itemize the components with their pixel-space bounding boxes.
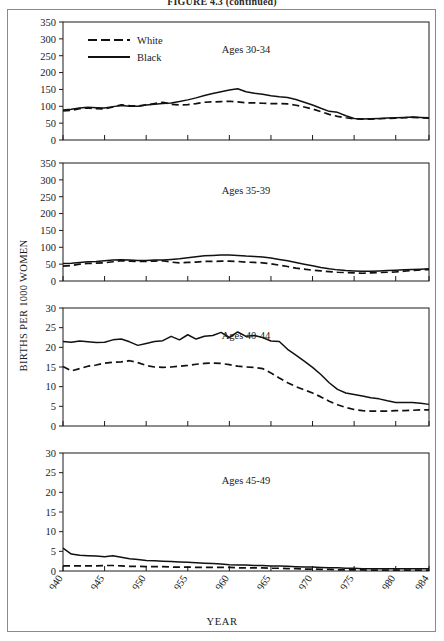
plot-frame	[63, 453, 429, 571]
y-tick-label: 350	[40, 159, 56, 169]
y-tick-label: 300	[40, 34, 56, 45]
y-tick-label: 300	[40, 175, 56, 186]
y-tick-label: 20	[46, 487, 57, 498]
x-tick-label-group: 1980	[377, 573, 398, 589]
y-tick-label: 30	[46, 304, 57, 314]
series-line-black	[63, 548, 429, 568]
x-tick-label-group: 1955	[169, 573, 190, 589]
panel-plot-3: 051015202530Ages 40-44	[0, 304, 444, 444]
y-tick-label: 10	[46, 526, 57, 537]
panel-4: 051015202530Ages 45-49194019451950195519…	[0, 449, 444, 589]
series-line-black	[63, 89, 429, 119]
y-tick-label: 20	[46, 342, 57, 353]
x-tick-label: 1955	[169, 573, 190, 589]
panel-age-label: Ages 40-44	[222, 330, 271, 341]
x-tick-label: 1975	[335, 573, 356, 589]
series-line-black	[63, 332, 429, 404]
panel-plot-4: 051015202530Ages 45-49194019451950195519…	[0, 449, 444, 589]
y-tick-label: 25	[46, 322, 57, 333]
plot-frame	[63, 308, 429, 426]
x-tick-label: 1970	[294, 573, 315, 589]
legend-label-white: White	[137, 35, 163, 46]
y-tick-label: 0	[51, 135, 56, 146]
y-tick-label: 15	[46, 507, 57, 518]
panel-2: 050100150200250300350Ages 35-39	[0, 159, 444, 299]
y-tick-label: 150	[40, 225, 56, 236]
figure-root: FIGURE 4.3 (continued) BIRTHS PER 1000 W…	[0, 0, 444, 641]
x-tick-label-group: 1975	[335, 573, 356, 589]
x-tick-label-group: 1970	[294, 573, 315, 589]
series-line-white	[63, 101, 429, 119]
y-tick-label: 100	[40, 101, 56, 112]
y-tick-label: 5	[51, 546, 56, 557]
figure-title: FIGURE 4.3 (continued)	[0, 0, 444, 7]
y-tick-label: 250	[40, 192, 56, 203]
x-tick-label: 1980	[377, 573, 398, 589]
x-tick-label: 1940	[44, 573, 65, 589]
panel-age-label: Ages 30-34	[222, 44, 271, 55]
panel-plot-2: 050100150200250300350Ages 35-39	[0, 159, 444, 299]
series-line-white	[63, 565, 429, 570]
panel-plot-1: 050100150200250300350Ages 30-34WhiteBlac…	[0, 18, 444, 158]
x-tick-label: 1960	[210, 573, 231, 589]
x-tick-label: 1965	[252, 573, 273, 589]
x-tick-label-group: 1965	[252, 573, 273, 589]
panel-age-label: Ages 45-49	[222, 475, 271, 486]
y-tick-label: 50	[46, 118, 57, 129]
panel-1: 050100150200250300350Ages 30-34WhiteBlac…	[0, 18, 444, 158]
x-axis-label: YEAR	[0, 616, 444, 627]
panel-age-label: Ages 35-39	[222, 185, 271, 196]
y-tick-label: 200	[40, 208, 56, 219]
y-tick-label: 350	[40, 18, 56, 28]
y-tick-label: 50	[46, 259, 57, 270]
y-tick-label: 250	[40, 51, 56, 62]
y-tick-label: 25	[46, 467, 57, 478]
series-line-black	[63, 255, 429, 271]
y-tick-label: 200	[40, 67, 56, 78]
x-tick-label: 1945	[86, 573, 107, 589]
x-tick-label-group: 1984	[410, 572, 431, 589]
x-tick-label-group: 1960	[210, 573, 231, 589]
panel-3: 051015202530Ages 40-44	[0, 304, 444, 444]
x-tick-label: 1984	[410, 572, 431, 589]
plot-frame	[63, 163, 429, 281]
legend-label-black: Black	[137, 52, 162, 63]
series-line-white	[63, 361, 429, 411]
y-tick-label: 100	[40, 242, 56, 253]
x-tick-label: 1950	[127, 573, 148, 589]
x-tick-label-group: 1950	[127, 573, 148, 589]
x-tick-label-group: 1945	[86, 573, 107, 589]
y-tick-label: 15	[46, 362, 57, 373]
y-tick-label: 5	[51, 401, 56, 412]
y-tick-label: 0	[51, 276, 56, 287]
y-tick-label: 30	[46, 449, 57, 459]
y-tick-label: 10	[46, 381, 57, 392]
y-tick-label: 0	[51, 421, 56, 432]
x-tick-label-group: 1940	[44, 573, 65, 589]
y-tick-label: 150	[40, 84, 56, 95]
